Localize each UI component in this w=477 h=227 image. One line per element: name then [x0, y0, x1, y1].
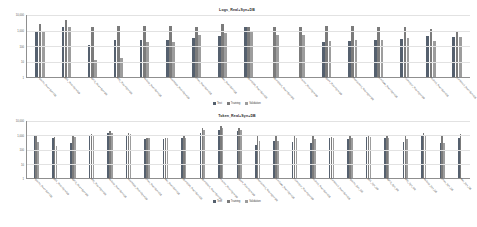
- gridline: [27, 150, 470, 151]
- bar-validation: [172, 42, 175, 77]
- bar-validation: [93, 135, 95, 178]
- x-label-cell: Combined_Real+Syn+DB: [322, 177, 341, 178]
- legend-label: Validation: [249, 102, 261, 105]
- token-y-axis: 10,0001,000100101: [0, 121, 26, 179]
- legend-label: Test: [217, 200, 222, 203]
- x-tick-label: Proxifier_Real+Syn+DB: [218, 178, 238, 199]
- x-label-cell: BGL_Syn_DB: [359, 177, 378, 178]
- bar-validation: [56, 146, 58, 178]
- x-tick-label: Apache_Real+Syn+DB: [33, 178, 52, 199]
- logs-plot: [26, 15, 470, 78]
- x-tick-label: HPC_Real+Syn+DB: [115, 77, 132, 96]
- gridline: [27, 121, 470, 122]
- logs-plot-area: 10,0001,000100101: [0, 15, 474, 78]
- legend-item[interactable]: Training: [227, 102, 240, 105]
- legend-item[interactable]: Validation: [245, 200, 260, 203]
- x-label-cell: Thunderbird_Real+Syn+DB: [248, 177, 267, 178]
- x-label-cell: Apache_Syn_DB: [341, 177, 360, 178]
- legend-swatch-icon: [213, 102, 216, 105]
- legend-label: Test: [217, 102, 222, 105]
- x-tick-label: Zookeeper_Real+Syn+DB: [403, 77, 425, 100]
- bar-validation: [185, 138, 187, 178]
- x-label-cell: Windows_Real+Syn+DB: [366, 76, 392, 77]
- x-label-cell: OpenStack_Real+Syn+DB: [261, 76, 287, 77]
- bar-validation: [333, 138, 335, 178]
- x-tick-label: Android_Real+Syn+DB: [311, 178, 330, 199]
- logs-x-axis-labels: Apache_Real+Syn+DBBGL_Real+Syn+DBHDFS_Re…: [26, 76, 470, 77]
- x-tick-label: HPC_Syn_DB: [403, 178, 416, 192]
- x-tick-label: Android_Real+Syn+DB: [429, 77, 448, 98]
- x-tick-label: Windows_Real+Syn+DB: [377, 77, 397, 99]
- bar-validation: [37, 142, 39, 178]
- gridline: [27, 15, 470, 16]
- legend-item[interactable]: Test: [213, 102, 222, 105]
- x-label-cell: Combined_Real+Syn+DB: [444, 76, 470, 77]
- x-tick-label: Apache_Syn_DB: [348, 178, 363, 194]
- x-label-cell: OpenSSH_Real+Syn+DB: [174, 177, 193, 178]
- x-label-cell: HealthApp_Real+Syn+DB: [157, 76, 183, 77]
- bar-training: [460, 134, 462, 178]
- x-label-cell: Hadoop_Real+Syn+DB: [100, 177, 119, 178]
- logs-y-axis: 10,0001,000100101: [0, 15, 26, 78]
- x-label-cell: Hadoop_Syn_DB: [415, 177, 434, 178]
- x-tick-label: Hadoop_Real+Syn+DB: [107, 178, 126, 199]
- y-tick-label: 1: [23, 178, 25, 181]
- chart-title-logs: Logs_Real+Syn+DB: [0, 8, 474, 13]
- bar-validation: [203, 130, 205, 178]
- x-label-cell: HDFS_Real+Syn+DB: [78, 76, 104, 77]
- x-tick-label: OpenSSH_Real+Syn+DB: [246, 77, 267, 100]
- token-x-axis-labels: Apache_Real+Syn+DBBGL_Real+Syn+DBHDFS_Re…: [26, 177, 470, 178]
- y-tick-label: 100: [20, 45, 24, 48]
- bar-validation: [406, 139, 408, 178]
- legend-swatch-icon: [213, 200, 216, 203]
- x-label-cell: Zookeeper_Real+Syn+DB: [285, 177, 304, 178]
- bar-validation: [314, 139, 316, 178]
- token-plot: [26, 121, 470, 179]
- x-tick-label: Combined_Real+Syn+DB: [455, 77, 476, 100]
- gridline: [27, 46, 470, 47]
- x-label-cell: HealthApp_Real+Syn+DB: [119, 177, 138, 178]
- x-tick-label: HPC_Real+Syn+DB: [89, 178, 106, 197]
- x-tick-label: BGL_Real+Syn+DB: [52, 178, 69, 196]
- x-tick-label: HealthApp_Real+Syn+DB: [126, 178, 147, 201]
- bar-validation: [198, 35, 201, 77]
- x-tick-label: Linux_Syn_DB: [440, 178, 453, 192]
- legend-swatch-icon: [245, 102, 248, 105]
- x-tick-label: OpenStack_Real+Syn+DB: [272, 77, 294, 101]
- bar-validation: [240, 130, 242, 178]
- x-tick-label: Linux_Real+Syn+DB: [144, 178, 162, 197]
- y-tick-label: 10: [21, 163, 24, 166]
- gridline: [27, 31, 470, 32]
- legend-item[interactable]: Test: [213, 200, 222, 203]
- y-tick-label: 10,000: [16, 14, 24, 17]
- x-label-cell: Apache_Real+Syn+DB: [26, 76, 52, 77]
- x-label-cell: HPC_Real+Syn+DB: [82, 177, 101, 178]
- x-tick-label: Zookeeper_Real+Syn+DB: [292, 178, 314, 201]
- bar-validation: [146, 42, 149, 77]
- x-tick-label: Spark_Real+Syn+DB: [324, 77, 342, 96]
- x-label-cell: Proxifier_Real+Syn+DB: [211, 177, 230, 178]
- legend-swatch-icon: [227, 200, 230, 203]
- y-tick-label: 10,000: [16, 120, 24, 123]
- bar-validation: [277, 141, 279, 178]
- y-tick-label: 1: [23, 77, 25, 80]
- x-label-cell: HPC_Syn_DB: [396, 177, 415, 178]
- x-label-cell: Mac_Real+Syn+DB: [156, 177, 175, 178]
- x-tick-label: HDFS_Real+Syn+DB: [70, 178, 88, 198]
- gridline: [27, 62, 470, 63]
- bar-validation: [459, 37, 462, 77]
- legend-label: Training: [231, 200, 241, 203]
- x-tick-label: OpenSSH_Real+Syn+DB: [181, 178, 202, 201]
- legend-item[interactable]: Training: [227, 200, 240, 203]
- logs-legend: TestTrainingValidation: [0, 102, 474, 105]
- x-label-cell: BGL_Real+Syn+DB: [45, 177, 64, 178]
- x-label-cell: OpenSSH_Real+Syn+DB: [235, 76, 261, 77]
- bar-validation: [425, 135, 427, 178]
- x-tick-label: Spark_Real+Syn+DB: [237, 178, 255, 197]
- chart-title-token: Token_Real+Syn+DB: [0, 114, 474, 119]
- x-label-cell: HDFS_Real+Syn+DB: [63, 177, 82, 178]
- legend-item[interactable]: Validation: [245, 102, 260, 105]
- token-plot-area: 10,0001,000100101: [0, 121, 474, 179]
- x-tick-label: BGL_Syn_DB: [366, 178, 378, 191]
